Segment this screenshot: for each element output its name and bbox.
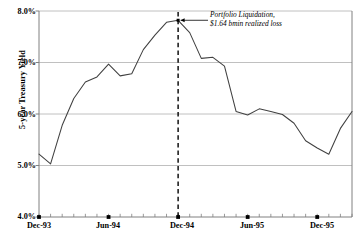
- annotation-leader: [177, 18, 208, 22]
- gridlines: [39, 11, 352, 217]
- plot-area: [0, 0, 363, 237]
- annotation-line-2: $1.64 bmin realized loss: [210, 19, 282, 28]
- yield-line-series: [39, 20, 352, 164]
- annotation-line-1: Portfolio Liquidation,: [210, 10, 282, 19]
- annotation-portfolio-liquidation: Portfolio Liquidation, $1.64 bmin realiz…: [210, 10, 282, 28]
- chart-figure: 5-year Treasury Yield 8.0% 7.0% 6.0% 5.0…: [0, 0, 363, 237]
